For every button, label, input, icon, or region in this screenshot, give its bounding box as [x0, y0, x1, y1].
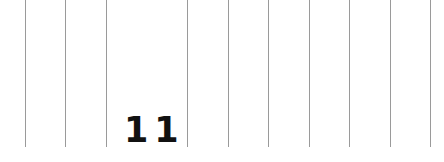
tick-line — [187, 0, 188, 147]
tick-line — [349, 0, 350, 147]
tick-line — [268, 0, 269, 147]
tick-line — [430, 0, 431, 147]
tick-line — [390, 0, 391, 147]
tick-label: 11 — [124, 113, 185, 148]
tick-line — [228, 0, 229, 147]
tick-line — [65, 0, 66, 147]
tick-line — [25, 0, 26, 147]
tick-line — [106, 0, 107, 147]
tick-line — [309, 0, 310, 147]
